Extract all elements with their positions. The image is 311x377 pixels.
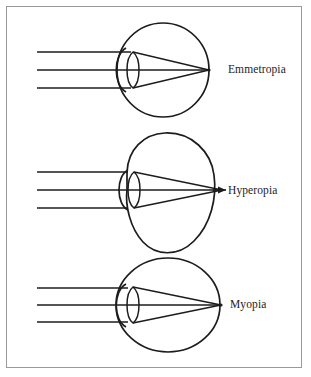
focal-point-emmetropia (207, 68, 210, 71)
label-myopia: Myopia (230, 298, 266, 310)
diagram-myopia (37, 258, 223, 352)
diagram-emmetropia (37, 23, 211, 117)
diagram-hyperopia (37, 133, 226, 253)
eye-refraction-figure: Emmetropia Hyperopia Myopia (0, 0, 311, 377)
focal-point-myopia (219, 303, 222, 306)
refracted-rays-myopia (128, 287, 221, 323)
refracted-rays-hyperopia (128, 172, 222, 208)
refracted-rays-emmetropia (131, 52, 209, 88)
label-emmetropia: Emmetropia (228, 63, 286, 75)
incoming-rays-hyperopia (37, 172, 128, 208)
label-hyperopia: Hyperopia (228, 184, 277, 196)
incoming-rays-myopia (37, 288, 128, 322)
